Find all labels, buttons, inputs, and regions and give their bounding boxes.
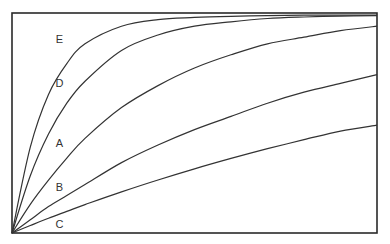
curve-label-c: C: [55, 218, 63, 230]
curve-label-d: D: [55, 77, 63, 89]
curve-labels-group: EDABC: [55, 33, 63, 230]
curve-e: [12, 15, 377, 233]
curve-b: [12, 75, 377, 233]
plot-frame: [12, 13, 377, 233]
curve-d: [12, 16, 377, 233]
curve-label-e: E: [56, 33, 63, 45]
curves-group: [12, 15, 377, 233]
curve-c: [12, 125, 377, 233]
line-chart: EDABC: [0, 0, 390, 244]
curve-label-a: A: [56, 137, 64, 149]
curve-label-b: B: [56, 181, 63, 193]
